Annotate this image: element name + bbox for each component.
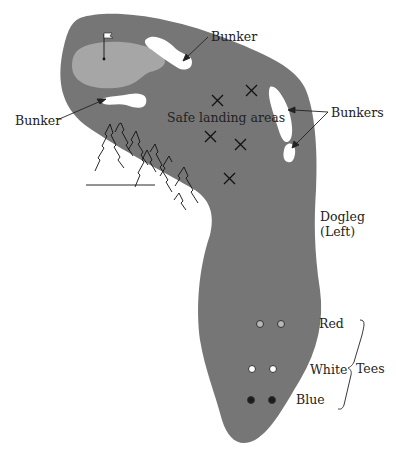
tee-blue-left bbox=[248, 397, 255, 404]
tee-red-right bbox=[278, 321, 285, 328]
label-tee-white: White bbox=[310, 362, 347, 377]
label-bunker-top: Bunker bbox=[211, 29, 257, 44]
label-tees: Tees bbox=[356, 361, 385, 376]
label-dogleg: Dogleg bbox=[320, 209, 365, 224]
label-bunker-left: Bunker bbox=[15, 113, 61, 128]
tee-white-right bbox=[270, 366, 277, 373]
label-tee-blue: Blue bbox=[296, 392, 325, 407]
tee-blue-right bbox=[269, 397, 276, 404]
tee-red-left bbox=[257, 321, 264, 328]
label-dogleg-direction: (Left) bbox=[320, 224, 355, 239]
label-safe-landing: Safe landing areas bbox=[167, 110, 285, 125]
label-bunkers-right: Bunkers bbox=[331, 105, 384, 120]
hole-cup bbox=[103, 58, 106, 61]
golf-hole-diagram: Bunker Bunker Bunkers Safe landing areas… bbox=[0, 0, 396, 455]
label-tee-red: Red bbox=[319, 316, 344, 331]
tee-white-left bbox=[249, 366, 256, 373]
